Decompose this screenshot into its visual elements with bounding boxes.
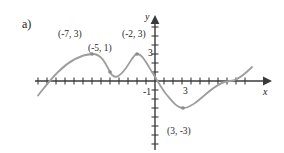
annotation-point-3: (-2, 3) <box>122 30 146 40</box>
y-tick-label-neg1: -1 <box>143 88 151 98</box>
x-axis-arrowhead <box>263 77 272 86</box>
point-marker <box>135 52 139 56</box>
graph-figure: a) y x 3 -1 3 (-7, 3) (-5, 1) (-2, 3) (3… <box>0 0 284 153</box>
y-axis-label: y <box>145 12 149 22</box>
point-marker <box>108 70 112 74</box>
point-marker <box>181 106 185 110</box>
x-tick-label-3: 3 <box>183 87 188 97</box>
y-tick-label-3: 3 <box>148 49 153 59</box>
x-axis-label: x <box>263 87 267 97</box>
part-label: a) <box>22 18 31 30</box>
y-axis-arrowhead <box>151 15 160 24</box>
annotation-point-2: (-5, 1) <box>88 44 112 54</box>
coordinate-plane <box>0 0 284 153</box>
annotation-point-1: (-7, 3) <box>58 30 82 40</box>
annotation-point-4: (3, -3) <box>167 127 191 137</box>
